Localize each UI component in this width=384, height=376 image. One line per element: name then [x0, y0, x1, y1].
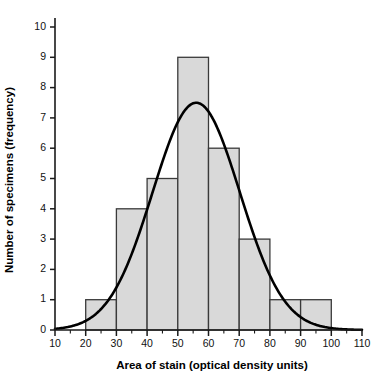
x-tick-label: 20 [80, 337, 92, 349]
y-axis-title: Number of specimens (frequency) [3, 87, 15, 273]
y-tick-label: 9 [40, 50, 46, 62]
histogram-bar [86, 300, 117, 330]
x-tick-label: 30 [111, 337, 123, 349]
x-tick-label: 70 [233, 337, 245, 349]
y-tick-label: 8 [40, 80, 46, 92]
x-tick-label: 40 [141, 337, 153, 349]
x-tick-label: 50 [172, 337, 184, 349]
y-tick-label: 10 [34, 20, 46, 32]
histogram-bar [239, 239, 270, 330]
y-tick-label: 5 [40, 171, 46, 183]
y-tick-label: 6 [40, 141, 46, 153]
y-axis-ticks: 012345678910 [34, 20, 55, 335]
x-tick-label: 80 [264, 337, 276, 349]
histogram-bar [178, 57, 209, 330]
y-tick-label: 0 [40, 323, 46, 335]
x-tick-label: 100 [323, 337, 341, 349]
y-tick-label: 4 [40, 202, 46, 214]
x-tick-label: 60 [203, 337, 215, 349]
y-tick-label: 3 [40, 232, 46, 244]
x-tick-label: 110 [354, 337, 371, 349]
histogram-bars [86, 57, 332, 330]
x-tick-label: 90 [295, 337, 307, 349]
x-axis-ticks: 102030405060708090100110 [49, 330, 370, 349]
chart-canvas: 012345678910 102030405060708090100110 Ar… [0, 0, 384, 376]
y-tick-label: 7 [40, 111, 46, 123]
y-tick-label: 2 [40, 262, 46, 274]
histogram-bar [147, 179, 178, 331]
x-tick-label: 10 [49, 337, 61, 349]
x-axis-title: Area of stain (optical density units) [116, 359, 308, 371]
y-tick-label: 1 [40, 292, 46, 304]
histogram-chart: 012345678910 102030405060708090100110 Ar… [0, 0, 384, 376]
